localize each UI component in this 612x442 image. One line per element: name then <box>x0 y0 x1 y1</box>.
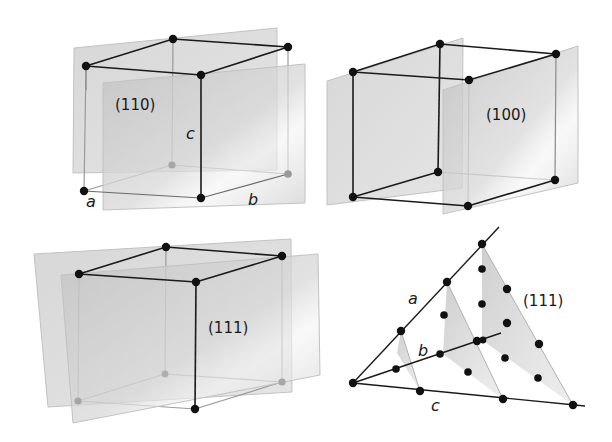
panel-111-stack: (111) a b c <box>349 227 585 415</box>
axis-label-a: a <box>86 192 96 211</box>
panel-100: (100) <box>327 38 578 214</box>
axis-label-c: c <box>186 124 195 143</box>
plane-label-100: (100) <box>486 106 526 124</box>
plane-label-110: (110) <box>115 96 155 114</box>
plane-111-front <box>61 254 320 423</box>
axis-label-b-stack: b <box>418 341 428 360</box>
plane-label-111-stack: (111) <box>523 292 563 310</box>
axis-label-c-stack: c <box>431 396 440 415</box>
axis-label-b: b <box>248 190 258 209</box>
panel-111-cube: (111) <box>34 239 320 423</box>
crystal-planes-figure: (110) c a b <box>0 0 612 442</box>
plane-label-111-cube: (111) <box>208 319 248 337</box>
panel-110: (110) c a b <box>73 28 305 211</box>
plane-110-front <box>103 64 305 210</box>
axis-label-a-stack: a <box>408 289 418 308</box>
